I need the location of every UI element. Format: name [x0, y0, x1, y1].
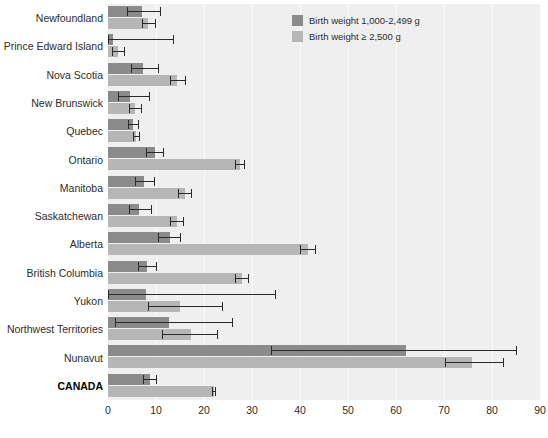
error-cap-high: [516, 346, 517, 355]
category-label-new-brunswick: New Brunswick: [0, 97, 103, 109]
category-label-nova-scotia: Nova Scotia: [0, 69, 103, 81]
error-cap-low: [158, 233, 159, 242]
bar-row: [108, 61, 540, 89]
error-cap-high: [156, 262, 157, 271]
error-cap-low: [148, 302, 149, 311]
error-bar-light: [148, 306, 223, 307]
error-bar-dark: [108, 294, 276, 295]
error-cap-high: [315, 245, 316, 254]
error-cap-low: [142, 19, 143, 28]
error-bar-light: [212, 391, 217, 392]
error-bar-dark: [115, 322, 233, 323]
bar-row: [108, 117, 540, 145]
error-cap-low: [108, 290, 109, 299]
error-bar-dark: [108, 39, 174, 40]
x-tick-90: 90: [534, 404, 546, 416]
error-cap-high: [180, 233, 181, 242]
error-bar-dark: [135, 181, 155, 182]
legend-label: Birth weight ≥ 2,500 g: [309, 31, 401, 42]
error-bar-dark: [146, 152, 164, 153]
bar-rows: [108, 4, 540, 400]
gridline-90: [540, 4, 541, 400]
bar-row: [108, 230, 540, 258]
error-cap-low: [146, 148, 147, 157]
error-cap-high: [151, 205, 152, 214]
error-cap-low: [212, 387, 213, 396]
error-cap-low: [162, 330, 163, 339]
category-label-yukon: Yukon: [0, 295, 103, 307]
error-cap-high: [158, 64, 159, 73]
error-cap-low: [129, 205, 130, 214]
legend-label: Birth weight 1,000-2,499 g: [309, 15, 420, 26]
error-cap-low: [112, 47, 113, 56]
error-cap-high: [244, 160, 245, 169]
bar-row: [108, 174, 540, 202]
error-cap-high: [215, 387, 216, 396]
error-bar-dark: [143, 379, 158, 380]
error-bar-dark: [127, 11, 161, 12]
x-tick-0: 0: [105, 404, 111, 416]
error-cap-low: [271, 346, 272, 355]
error-bar-light: [178, 193, 192, 194]
error-cap-low: [143, 375, 144, 384]
error-bar-dark: [271, 350, 518, 351]
error-bar-light: [170, 221, 183, 222]
error-cap-low: [138, 262, 139, 271]
error-cap-high: [155, 19, 156, 28]
bar-row: [108, 343, 540, 371]
bar-row: [108, 89, 540, 117]
x-axis: 0102030405060708090: [108, 400, 540, 420]
chart-legend: Birth weight 1,000-2,499 gBirth weight ≥…: [292, 15, 462, 47]
category-label-nunavut: Nunavut: [0, 352, 103, 364]
error-bar-light: [142, 23, 156, 24]
bar-light: [108, 216, 177, 227]
error-bar-light: [170, 80, 186, 81]
bar-light: [108, 357, 472, 368]
bar-light: [108, 386, 214, 397]
error-cap-low: [133, 132, 134, 141]
category-label-ontario: Ontario: [0, 154, 103, 166]
error-cap-high: [139, 132, 140, 141]
error-cap-high: [183, 217, 184, 226]
error-bar-light: [445, 362, 504, 363]
category-label-alberta: Alberta: [0, 238, 103, 250]
x-tick-40: 40: [294, 404, 306, 416]
error-cap-low: [235, 160, 236, 169]
error-cap-high: [185, 76, 186, 85]
error-cap-high: [160, 7, 161, 16]
error-bar-light: [235, 164, 245, 165]
category-label-newfoundland: Newfoundland: [0, 12, 103, 24]
error-bar-dark: [138, 266, 157, 267]
category-label-british-columbia: British Columbia: [0, 267, 103, 279]
x-tick-70: 70: [438, 404, 450, 416]
category-label-northwest-territories: Northwest Territories: [0, 323, 103, 335]
legend-item-1: Birth weight 1,000-2,499 g: [292, 15, 462, 26]
x-tick-30: 30: [246, 404, 258, 416]
error-bar-light: [133, 136, 140, 137]
error-cap-high: [154, 177, 155, 186]
bar-row: [108, 202, 540, 230]
error-cap-high: [275, 290, 276, 299]
error-cap-low: [131, 64, 132, 73]
error-cap-high: [248, 274, 249, 283]
category-label-quebec: Quebec: [0, 125, 103, 137]
error-cap-low: [445, 358, 446, 367]
error-cap-low: [118, 92, 119, 101]
bar-row: [108, 145, 540, 173]
error-cap-high: [173, 35, 174, 44]
error-cap-low: [115, 318, 116, 327]
bar-light: [108, 131, 136, 142]
error-cap-high: [222, 302, 223, 311]
category-axis-labels: NewfoundlandPrince Edward IslandNova Sco…: [0, 4, 103, 400]
error-cap-low: [129, 104, 130, 113]
error-bar-dark: [131, 68, 159, 69]
bar-row: [108, 315, 540, 343]
error-cap-high: [163, 148, 164, 157]
error-bar-light: [300, 249, 316, 250]
error-cap-low: [178, 189, 179, 198]
error-cap-low: [170, 76, 171, 85]
error-cap-low: [127, 7, 128, 16]
bar-light: [108, 75, 177, 86]
error-bar-light: [162, 334, 219, 335]
error-cap-high: [124, 47, 125, 56]
